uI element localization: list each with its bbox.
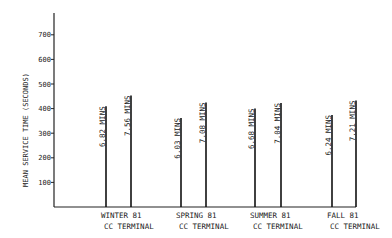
y-tick-label: 500 bbox=[38, 81, 51, 89]
y-tick-label: 400 bbox=[38, 105, 51, 113]
y-tick-label: 700 bbox=[38, 31, 51, 39]
bar-value-label: 7.08 MINS bbox=[198, 102, 207, 143]
y-tick-label: 100 bbox=[38, 179, 51, 187]
x-category-sublabel: CC TERMINAL bbox=[179, 222, 229, 231]
y-tick-label: 600 bbox=[38, 56, 51, 64]
x-category-sublabel: CC TERMINAL bbox=[330, 222, 380, 231]
y-tick-label: 300 bbox=[38, 130, 51, 138]
bar-value-label: 6.68 MINS bbox=[247, 108, 256, 149]
x-category-sublabel: CC TERMINAL bbox=[104, 222, 154, 231]
bar-value-label: 6.24 MINS bbox=[324, 114, 333, 155]
bar-value-label: 7.56 MINS bbox=[123, 95, 132, 136]
y-axis-label: MEAN SERVICE TIME (SECONDS) bbox=[22, 73, 30, 187]
x-category-label: SPRING 81 bbox=[176, 211, 217, 220]
bar-value-label: 6.03 MINS bbox=[173, 118, 182, 159]
y-axis-ticks: 100200300400500600700 bbox=[38, 31, 54, 187]
bar-chart: 100200300400500600700 6.82 MINS7.56 MINS… bbox=[0, 0, 392, 238]
x-category-label: FALL 81 bbox=[327, 211, 359, 220]
y-tick-label: 200 bbox=[38, 154, 51, 162]
x-axis-labels: WINTER 81CC TERMINALSPRING 81CC TERMINAL… bbox=[101, 211, 380, 231]
bars: 6.82 MINS7.56 MINS6.03 MINS7.08 MINS6.68… bbox=[98, 95, 357, 207]
bar-value-label: 7.04 MINS bbox=[273, 103, 282, 144]
x-category-sublabel: CC TERMINAL bbox=[253, 222, 303, 231]
x-category-label: WINTER 81 bbox=[101, 211, 142, 220]
bar-value-label: 6.82 MINS bbox=[98, 106, 107, 147]
x-category-label: SUMMER 81 bbox=[250, 211, 291, 220]
bar-value-label: 7.21 MINS bbox=[348, 100, 357, 141]
